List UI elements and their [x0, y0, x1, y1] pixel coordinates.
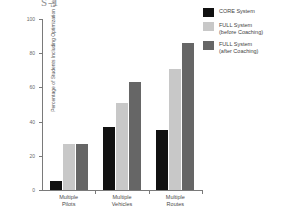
bar — [116, 103, 128, 190]
y-axis-tick-label: 80 — [0, 50, 35, 56]
legend-swatch — [203, 22, 214, 31]
x-axis-labels: Multiple PilotsMultiple VehiclesMultiple… — [42, 194, 202, 216]
bar — [50, 181, 62, 190]
y-axis-tick-label: 0 — [0, 187, 35, 193]
bar — [156, 130, 168, 190]
legend-swatch — [203, 41, 214, 50]
bar — [182, 43, 194, 190]
x-axis-line — [42, 190, 202, 191]
legend-item: CORE System — [203, 8, 289, 17]
legend-label: FULL System (after Coaching) — [219, 41, 258, 55]
y-axis-tick-label: 40 — [0, 119, 35, 125]
x-axis-label: Multiple Vehicles — [92, 194, 152, 208]
y-axis-tick-label: 60 — [0, 84, 35, 90]
y-axis-tick-label: 100 — [0, 16, 35, 22]
bar — [169, 69, 181, 190]
bar-chart-figure: S-1 020406080100 Percentage of Students … — [0, 0, 290, 217]
bar — [63, 144, 75, 190]
bar — [103, 127, 115, 190]
legend: CORE SystemFULL System (before Coaching)… — [203, 8, 289, 60]
bars-layer — [42, 19, 202, 190]
x-axis-label: Multiple Pilots — [39, 194, 99, 208]
legend-label: FULL System (before Coaching) — [219, 22, 263, 36]
x-axis-label: Multiple Routes — [145, 194, 205, 208]
legend-label: CORE System — [219, 8, 255, 15]
y-axis-title: Percentage of Students Including Optimiz… — [50, 0, 57, 119]
legend-item: FULL System (before Coaching) — [203, 22, 289, 36]
y-axis-tick — [39, 190, 43, 191]
bar — [76, 144, 88, 190]
legend-swatch — [203, 8, 214, 17]
y-axis-tick-label: 20 — [0, 153, 35, 159]
legend-item: FULL System (after Coaching) — [203, 41, 289, 55]
bar — [129, 82, 141, 190]
